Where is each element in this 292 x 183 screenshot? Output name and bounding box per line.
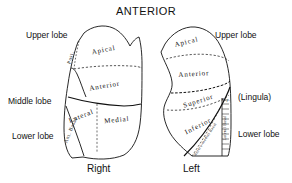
left-lung-group: Apical Anterior Superior Inferior Sup. A… [161, 27, 231, 157]
left-segment-lower-superior: Sup. [222, 97, 230, 102]
left-lung-outline [161, 27, 231, 156]
right-lung-group: Apical Post. Anterior Lateral Medial Ant… [62, 26, 142, 159]
lung-segment-diagram: Apical Post. Anterior Lateral Medial Ant… [0, 0, 292, 183]
left-segment-lateral-basal: Lateral Basal [222, 115, 227, 141]
